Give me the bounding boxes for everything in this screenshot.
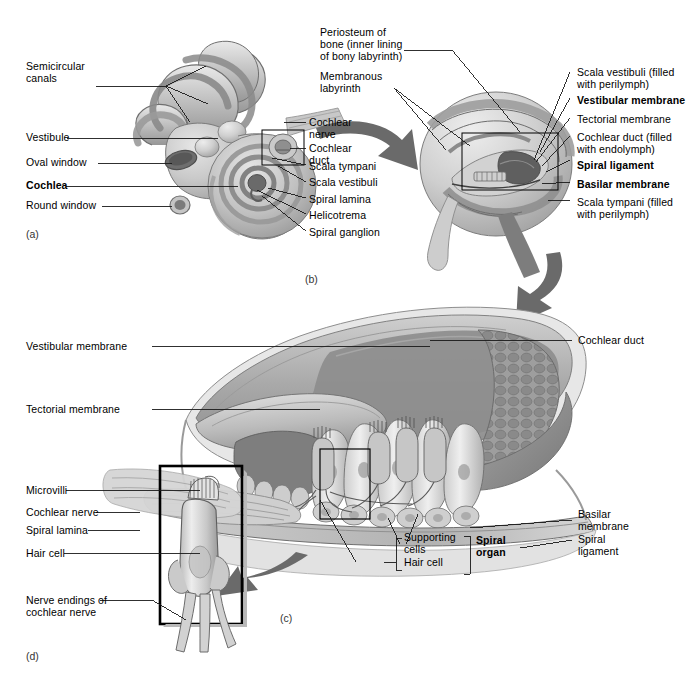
label-cochlear-duct-endolymph: Cochlear duct (filled with endolymph) (577, 131, 672, 155)
label-c-spiral-lamina: Spiral lamina (26, 524, 88, 536)
label-spiral-organ: Spiral organ (476, 534, 506, 558)
panel-label-a: (a) (26, 228, 39, 240)
label-scala-tympani: Scala tympani (309, 160, 376, 172)
label-c-spiral-ligament: Spiral ligament (578, 533, 619, 557)
label-scala-vestibuli-perilymph: Scala vestibuli (filled with perilymph) (577, 66, 674, 90)
label-round-window: Round window (26, 199, 96, 211)
panel-label-c: (c) (280, 612, 292, 624)
label-vestibular-membrane: Vestibular membrane (577, 94, 685, 106)
label-nerve-endings: Nerve endings of cochlear nerve (26, 594, 107, 618)
panel-label-d: (d) (26, 650, 39, 662)
label-oval-window: Oval window (26, 156, 87, 168)
figure-canvas: Semicircular canals Vestibule Oval windo… (0, 0, 697, 679)
label-membranous-labyrinth: Membranous labyrinth (320, 70, 382, 94)
label-vestibule: Vestibule (26, 131, 70, 143)
label-scala-tympani-perilymph: Scala tympani (filled with perilymph) (577, 196, 673, 220)
label-tectorial-membrane: Tectorial membrane (577, 113, 671, 125)
label-c-vestibular-membrane: Vestibular membrane (26, 340, 127, 352)
label-spiral-ligament: Spiral ligament (577, 159, 654, 171)
label-periosteum-of-bone: Periosteum of bone (inner lining of bony… (320, 26, 402, 63)
label-c-basilar-membrane: Basilar membrane (578, 508, 629, 532)
label-scala-vestibuli: Scala vestibuli (309, 176, 378, 188)
panel-d-illustration (103, 466, 247, 652)
label-cochlear-nerve: Cochlear nerve (309, 116, 352, 140)
label-semicircular-canals: Semicircular canals (26, 60, 85, 84)
panel-label-b: (b) (305, 273, 318, 285)
label-basilar-membrane: Basilar membrane (577, 178, 670, 190)
label-supporting-cells: Supporting cells (404, 531, 456, 555)
label-c-tectorial-membrane: Tectorial membrane (26, 403, 120, 415)
label-helicotrema: Helicotrema (309, 209, 366, 221)
label-cochlea: Cochlea (26, 179, 68, 191)
label-spiral-ganglion: Spiral ganglion (309, 226, 380, 238)
label-microvilli: Microvilli (26, 484, 67, 496)
panel-b-illustration (420, 92, 572, 324)
label-spiral-lamina: Spiral lamina (309, 193, 371, 205)
label-center-hair-cell: Hair cell (404, 556, 443, 568)
label-c-cochlear-duct: Cochlear duct (578, 334, 644, 346)
label-c-hair-cell: Hair cell (26, 547, 65, 559)
label-c-cochlear-nerve: Cochlear nerve (26, 506, 99, 518)
